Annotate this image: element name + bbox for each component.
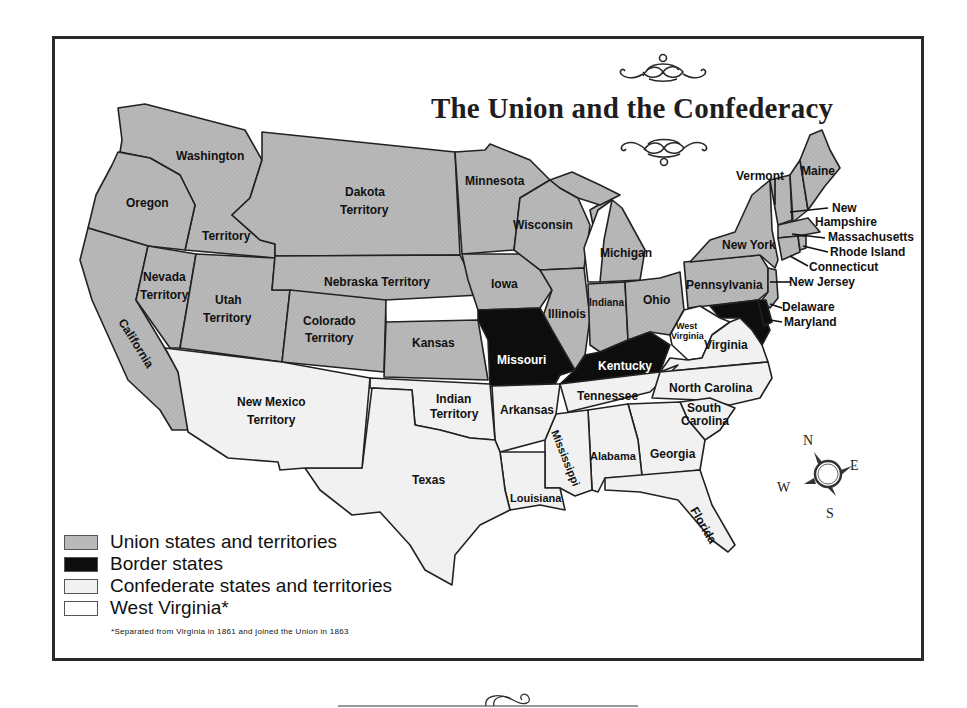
region-kansas [384,320,488,380]
label-iowa: Iowa [491,277,518,291]
label-colorado: Colorado [303,314,356,328]
legend-label-union: Union states and territories [110,532,337,552]
legend-swatch-border [64,557,98,572]
label-west-virginia-1: West [676,321,697,331]
bottom-divider-ornament [338,690,638,708]
label-connecticut: Connecticut [809,260,878,274]
label-texas: Texas [412,473,445,487]
label-kentucky: Kentucky [598,359,652,373]
label-new-hampshire-2: Hampshire [815,215,877,229]
legend-label-west-virginia: West Virginia* [110,598,229,618]
label-tennessee: Tennessee [577,389,638,403]
label-rhode-island: Rhode Island [830,245,905,259]
compass-w-label: W [777,480,791,495]
compass-rose-icon: N E S W [777,433,859,521]
label-indian-territory: Territory [430,407,479,421]
label-new-jersey: New Jersey [789,275,855,289]
label-washington: Washington [176,149,244,163]
label-ohio: Ohio [643,293,670,307]
compass-s-label: S [826,506,834,521]
label-massachusetts: Massachusetts [828,230,914,244]
legend-item-border: Border states [64,553,392,575]
label-minnesota: Minnesota [465,174,525,188]
label-nevada-territory: Territory [140,288,189,302]
label-utah-territory: Territory [203,311,252,325]
label-washington-territory: Territory [202,229,251,243]
region-rhode-island [798,236,806,250]
region-connecticut [778,236,800,260]
label-kansas: Kansas [412,336,455,350]
label-north-carolina: North Carolina [669,381,753,395]
legend-item-union: Union states and territories [64,531,392,553]
legend-label-border: Border states [110,554,223,574]
label-wisconsin: Wisconsin [513,218,573,232]
label-new-york: New York [722,238,776,252]
compass-e-label: E [850,458,859,473]
label-virginia: Virginia [704,338,748,352]
compass-n-label: N [803,433,813,448]
label-indiana: Indiana [589,297,624,308]
label-nebraska-territory: Nebraska Territory [324,275,430,289]
label-utah: Utah [215,293,242,307]
label-delaware: Delaware [782,300,835,314]
label-louisiana: Louisiana [510,492,562,504]
label-alabama: Alabama [590,450,637,462]
label-missouri: Missouri [497,353,546,367]
label-maine: Maine [801,164,835,178]
label-dakota: Dakota [345,185,385,199]
label-indian: Indian [436,392,471,406]
label-west-virginia-2: Virginia [671,331,705,341]
label-pennsylvania: Pennsylvania [686,278,763,292]
label-illinois: Illinois [548,307,586,321]
legend-footnote: *Separated from Virginia in 1861 and joi… [111,627,349,636]
region-indiana [588,282,628,352]
label-maryland: Maryland [784,315,837,329]
legend-item-confederate: Confederate states and territories [64,575,392,597]
label-nevada: Nevada [143,270,186,284]
label-new-mexico-territory: Territory [247,413,296,427]
label-new-hampshire-1: New [832,201,857,215]
legend-label-confederate: Confederate states and territories [110,576,392,596]
label-michigan: Michigan [600,246,652,260]
map-legend: Union states and territories Border stat… [64,531,392,619]
legend-swatch-west-virginia [64,601,98,616]
label-dakota-territory: Territory [340,203,389,217]
legend-swatch-union [64,535,98,550]
label-oregon: Oregon [126,196,169,210]
label-south-carolina-1: South [687,401,721,415]
label-arkansas: Arkansas [500,403,554,417]
label-georgia: Georgia [650,447,696,461]
label-vermont: Vermont [736,169,784,183]
label-new-mexico: New Mexico [237,395,306,409]
legend-swatch-confederate [64,579,98,594]
label-colorado-territory: Territory [305,331,354,345]
label-south-carolina-2: Carolina [681,414,729,428]
region-new-york [690,180,778,268]
legend-item-west-virginia: West Virginia* [64,597,392,619]
